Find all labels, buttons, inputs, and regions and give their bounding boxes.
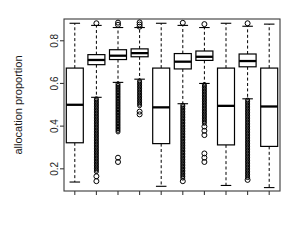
box-plot-item bbox=[196, 22, 213, 165]
outlier-column bbox=[246, 98, 250, 180]
boxplot-figure: allocation proportion 0.20.40.60.8 bbox=[0, 0, 296, 238]
outlier-point bbox=[94, 179, 99, 184]
outlier-column bbox=[181, 103, 185, 180]
box-plot-item bbox=[261, 24, 278, 187]
outlier-column bbox=[116, 82, 120, 134]
y-tick-label: 0.6 bbox=[49, 76, 60, 90]
boxplot-canvas: allocation proportion 0.20.40.60.8 bbox=[0, 0, 296, 238]
outlier-point bbox=[180, 179, 185, 184]
outlier-point bbox=[202, 22, 207, 27]
box-plot-item bbox=[153, 23, 170, 186]
outlier-point bbox=[94, 174, 99, 179]
box-series bbox=[66, 20, 277, 188]
y-axis-title: allocation proportion bbox=[12, 55, 24, 154]
box-plot-item bbox=[131, 20, 148, 117]
outlier-point bbox=[245, 21, 250, 26]
box-plot-item bbox=[239, 21, 256, 183]
y-tick-label: 0.8 bbox=[49, 33, 60, 47]
box-plot-item bbox=[110, 20, 127, 164]
y-tick-label: 0.4 bbox=[49, 119, 60, 133]
outlier-point bbox=[180, 20, 185, 25]
x-tick-marks bbox=[75, 191, 269, 195]
box-rect bbox=[153, 68, 170, 144]
box-plot-item bbox=[174, 20, 191, 183]
y-axis-label-group: allocation proportion bbox=[12, 55, 24, 154]
outlier-column bbox=[202, 83, 206, 126]
outlier-column bbox=[94, 97, 98, 174]
y-tick-marks bbox=[60, 41, 64, 169]
box-plot-item bbox=[88, 21, 105, 184]
box-plot-item bbox=[66, 23, 83, 182]
y-tick-label: 0.2 bbox=[49, 161, 60, 175]
outlier-column bbox=[138, 79, 142, 108]
box-plot-item bbox=[218, 23, 235, 185]
y-tick-labels: 0.20.40.60.8 bbox=[49, 33, 60, 175]
